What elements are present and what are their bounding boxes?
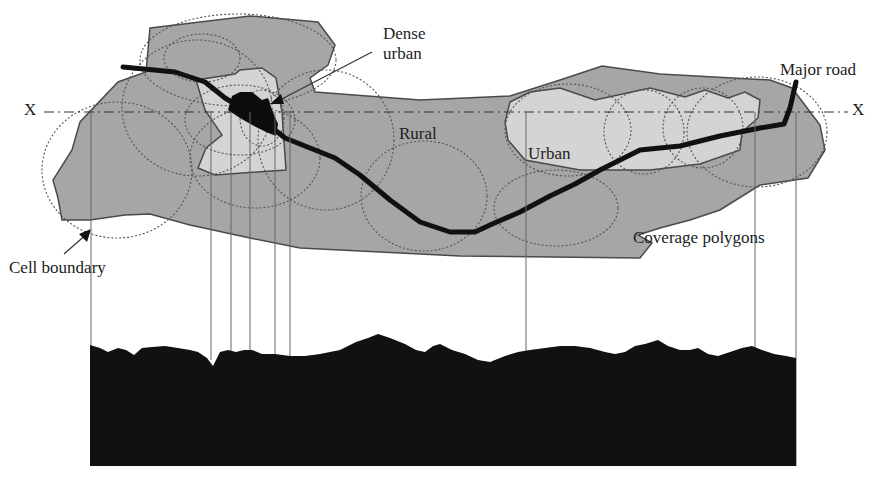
label-dense-urban-line2: urban: [383, 45, 422, 64]
label-coverage-polygons: Coverage polygons: [633, 229, 765, 248]
label-dense-urban-line1: Dense: [383, 25, 425, 44]
label-x-right: X: [852, 101, 864, 120]
label-x-left: X: [24, 101, 36, 120]
label-major-road: Major road: [780, 61, 856, 80]
label-rural: Rural: [399, 125, 437, 144]
terrain-profile: [90, 334, 796, 466]
label-cell-boundary: Cell boundary: [9, 259, 106, 278]
coverage-diagram: Dense urban Major road Rural Urban Cover…: [0, 0, 889, 481]
label-urban: Urban: [528, 145, 570, 164]
